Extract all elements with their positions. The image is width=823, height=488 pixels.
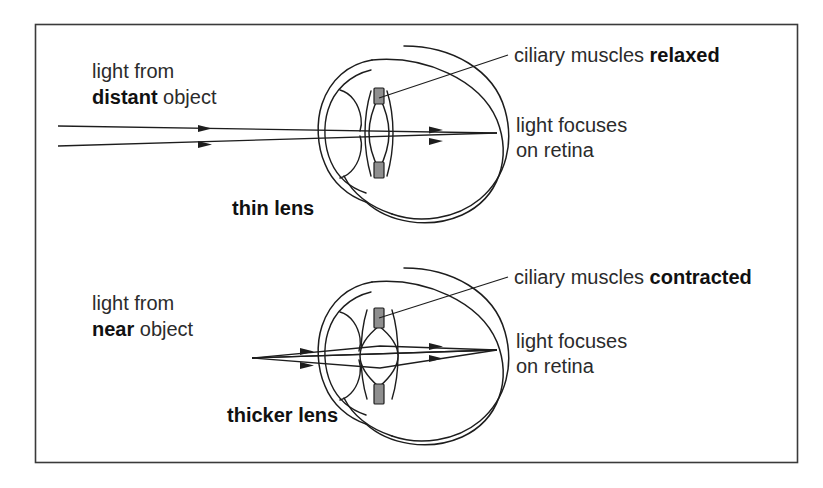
label-near-object-rest: object — [134, 318, 193, 340]
label-thin-lens: thin lens — [232, 197, 314, 219]
label-focus-near-line2: on retina — [516, 355, 595, 377]
label-ciliary-relaxed: ciliary muscles relaxed — [514, 44, 720, 66]
label-light-from-near-line1: light from — [92, 292, 174, 314]
eye-accommodation-figure: light from distant object thin lens cili… — [0, 0, 823, 488]
diagram-canvas: light from distant object thin lens cili… — [0, 0, 823, 488]
label-light-from-near-line2: near object — [92, 318, 194, 340]
label-relaxed-bold: relaxed — [650, 44, 720, 66]
label-contracted-bold: contracted — [650, 266, 752, 288]
label-ciliary-contracted: ciliary muscles contracted — [514, 266, 752, 288]
label-focus-near-line1: light focuses — [516, 330, 627, 352]
label-light-from-distant-line2: distant object — [92, 86, 217, 108]
label-thicker-lens: thicker lens — [227, 404, 338, 426]
label-near-bold: near — [92, 318, 134, 340]
label-focus-distant-line1: light focuses — [516, 114, 627, 136]
label-light-from-distant-line1: light from — [92, 60, 174, 82]
label-distant-bold: distant — [92, 86, 158, 108]
ciliary-muscle-lower-distant — [374, 162, 384, 178]
ciliary-muscle-lower-near — [374, 384, 384, 404]
label-distant-object-rest: object — [158, 86, 217, 108]
ciliary-muscle-upper-distant — [374, 88, 384, 104]
label-ciliary-muscles-plain-distant: ciliary muscles — [514, 44, 650, 66]
label-ciliary-muscles-plain-near: ciliary muscles — [514, 266, 650, 288]
label-focus-distant-line2: on retina — [516, 139, 595, 161]
